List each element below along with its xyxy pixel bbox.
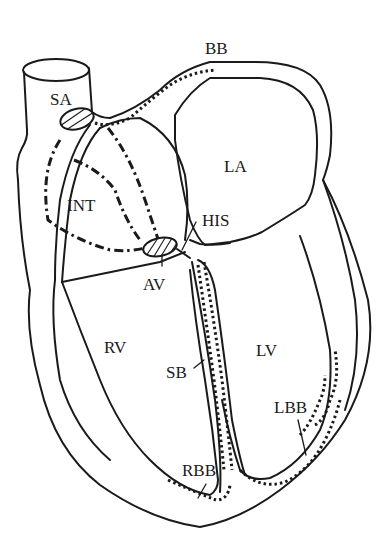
label-sb: SB xyxy=(166,363,187,382)
label-his: HIS xyxy=(202,211,229,230)
rv-outer-wall xyxy=(53,280,110,460)
label-av: AV xyxy=(143,275,166,294)
label-int: INT xyxy=(67,196,96,215)
lbb-leader xyxy=(298,420,306,455)
av-plane xyxy=(62,252,185,282)
label-rv: RV xyxy=(104,338,127,357)
septum-right xyxy=(198,260,245,475)
his-leader xyxy=(182,222,196,250)
label-lbb: LBB xyxy=(274,398,307,417)
label-bb: BB xyxy=(205,39,228,58)
heart-conduction-diagram: SA BB LA INT HIS AV RV LV SB LBB RBB xyxy=(0,0,385,554)
label-la: LA xyxy=(224,157,247,176)
label-rbb: RBB xyxy=(182,461,216,480)
internodal-anterior xyxy=(108,128,160,245)
label-lv: LV xyxy=(256,341,278,360)
label-sa: SA xyxy=(50,90,72,109)
